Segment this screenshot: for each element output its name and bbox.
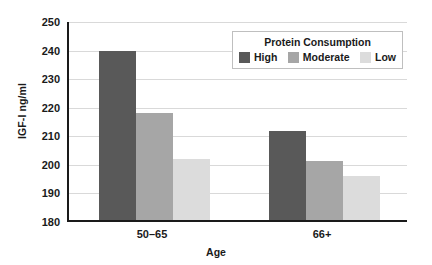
- legend-items: HighModerateLow: [239, 51, 396, 63]
- legend-item-high[interactable]: High: [239, 51, 277, 63]
- legend-swatch-icon: [360, 52, 371, 63]
- legend-swatch-icon: [239, 52, 250, 63]
- legend-item-label: Moderate: [303, 51, 350, 63]
- y-tick-label: 210: [20, 130, 60, 142]
- x-axis-title: Age: [0, 246, 432, 258]
- y-tick-label: 240: [20, 45, 60, 57]
- bar-low-1: [343, 176, 380, 220]
- x-tick-label: 66+: [313, 228, 332, 240]
- legend-title: Protein Consumption: [239, 36, 396, 48]
- gridline: [69, 22, 407, 23]
- legend-item-moderate[interactable]: Moderate: [288, 51, 350, 63]
- legend: Protein Consumption HighModerateLow: [232, 31, 403, 69]
- bar-high-1: [269, 131, 306, 220]
- bar-high-0: [99, 51, 136, 220]
- bar-moderate-1: [306, 161, 343, 220]
- y-tick-label: 230: [20, 73, 60, 85]
- legend-item-label: Low: [375, 51, 396, 63]
- y-tick-label: 180: [20, 216, 60, 228]
- y-tick-label: 220: [20, 102, 60, 114]
- y-tick-label: 200: [20, 159, 60, 171]
- bar-low-0: [173, 159, 210, 220]
- x-tick-label: 50–65: [137, 228, 168, 240]
- bar-chart: IGF-I ng/ml 180190200210220230240250 50–…: [0, 0, 432, 265]
- legend-swatch-icon: [288, 52, 299, 63]
- y-tick-label: 250: [20, 16, 60, 28]
- bar-moderate-0: [136, 113, 173, 220]
- legend-item-label: High: [254, 51, 277, 63]
- legend-item-low[interactable]: Low: [360, 51, 396, 63]
- y-tick-label: 190: [20, 187, 60, 199]
